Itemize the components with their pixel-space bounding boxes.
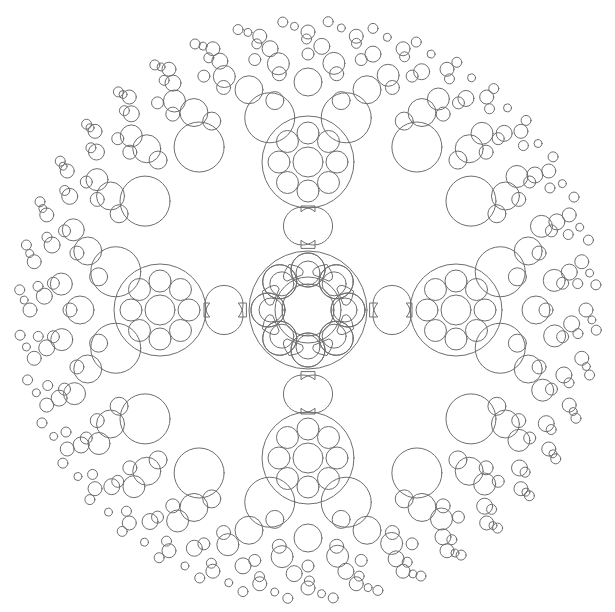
mandala-illustration: Circle Mandala Radially symmetric mandal… [0,0,615,612]
mandala-artboard: Circle Mandala Radially symmetric mandal… [0,0,615,612]
